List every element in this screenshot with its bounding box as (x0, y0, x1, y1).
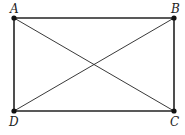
vertex-labels: ABCD (8, 2, 180, 129)
edges (14, 18, 174, 111)
vertex-B (171, 15, 176, 20)
rectangle-diagram: ABCD (0, 0, 185, 135)
vertex-label-A: A (9, 2, 19, 16)
vertex-D (11, 108, 16, 113)
vertex-A (11, 15, 16, 20)
vertex-label-B: B (170, 2, 180, 16)
vertex-label-D: D (8, 115, 19, 129)
vertex-label-C: C (170, 115, 179, 129)
vertex-C (171, 108, 176, 113)
